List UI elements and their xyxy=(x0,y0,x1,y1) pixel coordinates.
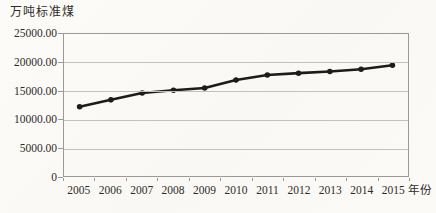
x-axis-tick xyxy=(189,178,190,181)
data-point-marker-2012 xyxy=(296,70,302,76)
x-axis-tick-label: 2005 xyxy=(63,183,95,197)
x-axis-tick-label: 2009 xyxy=(189,183,221,197)
x-axis-tick xyxy=(220,178,221,181)
x-axis-tick xyxy=(315,178,316,181)
data-point-marker-2013 xyxy=(327,69,333,75)
x-axis-tick-label: 2015 xyxy=(377,183,409,197)
x-axis-tick xyxy=(157,178,158,181)
x-axis-tick-label: 2014 xyxy=(346,183,378,197)
x-axis-tick xyxy=(409,178,410,181)
x-axis-tick-label: 2012 xyxy=(283,183,315,197)
x-axis-tick xyxy=(126,178,127,181)
data-point-marker-2006 xyxy=(108,97,114,103)
data-point-marker-2015 xyxy=(390,62,396,68)
x-axis-tick xyxy=(63,178,64,181)
y-axis-tick xyxy=(58,33,63,34)
energy-line-series xyxy=(64,34,408,176)
x-axis-tick-label: 2008 xyxy=(157,183,189,197)
x-axis-tick xyxy=(283,178,284,181)
y-axis-title: 万吨标准煤 xyxy=(10,5,75,19)
series-line xyxy=(80,65,393,106)
x-axis-tick-label: 2010 xyxy=(220,183,252,197)
y-axis-tick xyxy=(58,91,63,92)
data-point-marker-2009 xyxy=(202,85,208,91)
data-point-marker-2011 xyxy=(265,72,271,78)
x-axis-tick xyxy=(378,178,379,181)
y-axis-tick-label: 20000.00 xyxy=(0,55,57,69)
energy-consumption-line-chart: 万吨标准煤 年份 05000.0010000.0015000.0020000.0… xyxy=(0,0,436,213)
x-axis-tick xyxy=(94,178,95,181)
data-point-marker-2014 xyxy=(358,66,364,72)
x-axis-tick-label: 2006 xyxy=(94,183,126,197)
y-axis-tick xyxy=(58,148,63,149)
y-axis-tick xyxy=(58,119,63,120)
x-axis-tick-label: 2011 xyxy=(251,183,283,197)
y-gridline xyxy=(64,120,408,121)
x-axis-tick-label: 2007 xyxy=(126,183,158,197)
y-gridline xyxy=(64,91,408,92)
y-axis-tick-label: 10000.00 xyxy=(0,112,57,126)
data-point-marker-2005 xyxy=(77,104,83,110)
y-gridline xyxy=(64,62,408,63)
x-axis-unit-label: 年份 xyxy=(408,183,431,197)
y-axis-tick-label: 5000.00 xyxy=(0,141,57,155)
y-axis-tick xyxy=(58,62,63,63)
x-axis-tick xyxy=(346,178,347,181)
y-gridline xyxy=(64,149,408,150)
x-axis-tick-label: 2013 xyxy=(314,183,346,197)
x-axis-tick xyxy=(252,178,253,181)
y-axis-tick-label: 0 xyxy=(0,170,57,184)
plot-area xyxy=(63,33,409,177)
data-point-marker-2010 xyxy=(233,77,239,83)
y-axis-tick-label: 15000.00 xyxy=(0,84,57,98)
y-axis-tick-label: 25000.00 xyxy=(0,26,57,40)
